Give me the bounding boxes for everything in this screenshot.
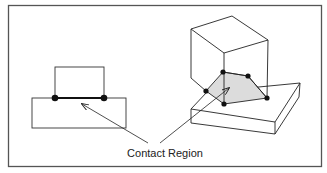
cube-top-face bbox=[191, 16, 268, 53]
upper-block-2d bbox=[55, 67, 104, 98]
contact-region-diagram: Contact Region bbox=[0, 0, 327, 173]
slab-side-edges bbox=[275, 83, 300, 134]
contact-point-left bbox=[52, 95, 59, 102]
arrow-to-3d-contact bbox=[160, 88, 229, 143]
contact-point-right bbox=[101, 95, 108, 102]
cube-edge-bottom-left bbox=[191, 78, 206, 91]
lower-block-2d bbox=[32, 98, 126, 128]
slab-front-edges bbox=[191, 109, 275, 134]
isometric-view bbox=[191, 16, 300, 134]
contact-region-label: Contact Region bbox=[110, 147, 220, 159]
side-view bbox=[32, 67, 126, 128]
arrow-to-2d-contact bbox=[82, 104, 148, 143]
cube-edge-right bbox=[267, 40, 268, 98]
